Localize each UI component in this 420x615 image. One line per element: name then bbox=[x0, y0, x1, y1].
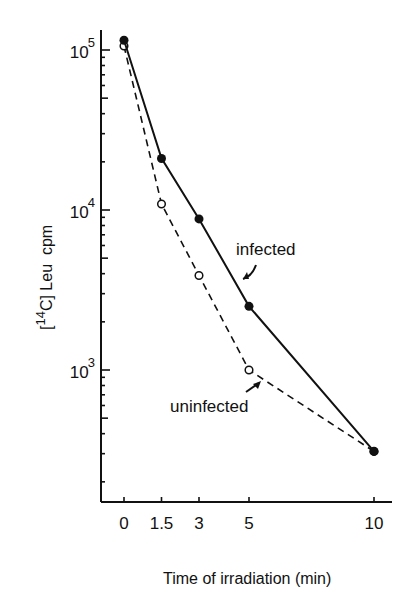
x-tick-label: 10 bbox=[365, 514, 384, 533]
x-tick-label: 3 bbox=[194, 514, 203, 533]
svg-text:[14C] Leu cpm: [14C] Leu cpm bbox=[33, 225, 55, 330]
data-point bbox=[195, 272, 203, 280]
data-point bbox=[157, 154, 166, 163]
y-tick-label: 104 bbox=[70, 195, 95, 222]
y-tick-label: 103 bbox=[70, 355, 95, 382]
uninfected-label: uninfected bbox=[170, 397, 248, 416]
uninfected-arrowhead bbox=[253, 381, 261, 389]
data-point bbox=[120, 36, 129, 45]
chart: 103104105 01.53510 infected uninfected T… bbox=[0, 0, 420, 615]
data-point bbox=[245, 366, 253, 374]
y-axis bbox=[101, 30, 110, 502]
y-tick-label: 105 bbox=[70, 35, 95, 62]
data-point bbox=[195, 214, 204, 223]
x-axis-title: Time of irradiation (min) bbox=[163, 570, 331, 587]
x-tick-label: 5 bbox=[244, 514, 253, 533]
data-point bbox=[370, 447, 379, 456]
x-tick-label: 1.5 bbox=[150, 514, 174, 533]
y-axis-title: [14C] Leu cpm bbox=[33, 225, 55, 330]
y-tick-labels: 103104105 bbox=[70, 35, 95, 382]
x-tick-label: 0 bbox=[119, 514, 128, 533]
data-point bbox=[158, 200, 166, 208]
x-axis bbox=[101, 497, 392, 502]
infected-label: infected bbox=[236, 240, 296, 259]
data-point bbox=[245, 302, 254, 311]
x-tick-labels: 01.53510 bbox=[119, 514, 383, 533]
